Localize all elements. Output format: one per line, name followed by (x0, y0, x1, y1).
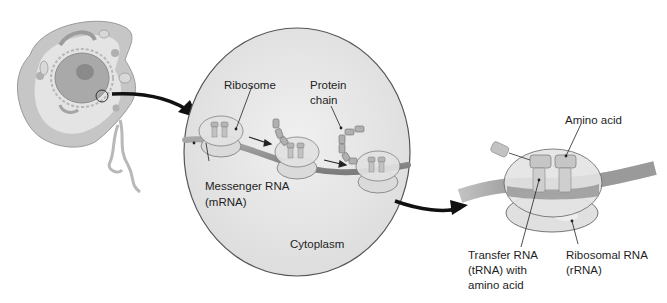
label-cytoplasm: Cytoplasm (290, 237, 344, 251)
label-ribosome: Ribosome (224, 78, 276, 92)
label-trna-line2: (tRNA) with (468, 263, 527, 277)
label-mrna-line1: Messenger RNA (205, 179, 289, 193)
label-protein-chain-line2: chain (310, 93, 338, 107)
label-rrna-line2: (rRNA) (566, 263, 602, 277)
cell-illustration (17, 21, 140, 192)
trna-2 (559, 168, 571, 192)
label-trna-line1: Transfer RNA (468, 248, 538, 262)
label-rrna-line1: Ribosomal RNA (566, 248, 648, 262)
ribosome-detail (460, 124, 655, 247)
ribosome-3 (356, 151, 400, 193)
ribosome-1 (199, 116, 243, 157)
label-trna-line3: amino acid (468, 278, 524, 292)
label-amino-acid: Amino acid (565, 113, 622, 127)
label-mrna-line2: (mRNA) (205, 195, 247, 209)
amino-acid-1 (530, 155, 551, 168)
zoom-arrow-2 (395, 201, 460, 210)
label-protein-chain-line1: Protein (310, 78, 346, 92)
large-subunit (504, 149, 602, 217)
nucleolus (76, 64, 94, 80)
